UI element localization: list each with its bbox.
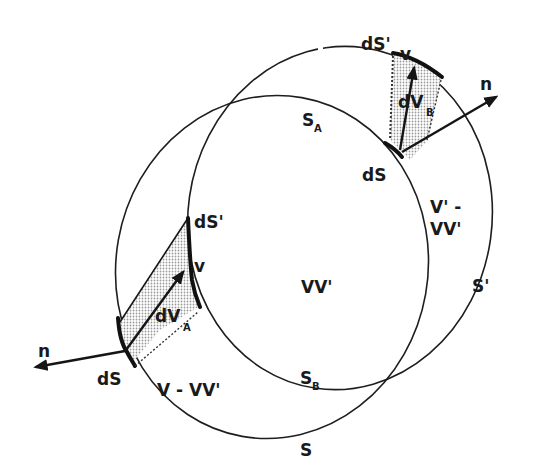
region-v-only-label: V - VV' [157,380,221,400]
left-volume-sub: A [183,322,191,333]
left-velocity-label: v [194,256,205,276]
s-prime-gap [318,42,323,52]
right-volume-sub: B [426,107,434,118]
region-intersection-label: VV' [301,277,333,297]
right-ds-prime-label: dS' [361,34,391,54]
left-ds-label: dS [97,369,121,389]
surface-s-label: S [300,440,312,460]
left-volume-label: dV [155,306,181,326]
region-vprime-only-line1: V' - [430,197,461,217]
surface-sb-label: S [300,368,312,388]
right-volume-label: dV [398,92,424,112]
surface-s-prime-label: S' [472,276,489,296]
left-normal-label: n [38,341,50,361]
right-normal-label: n [480,74,492,94]
surface-sa-label: S [302,110,314,130]
left-ds-prime-label: dS' [194,212,224,232]
right-ds-label: dS [362,165,386,185]
region-vprime-only-line2: VV' [430,219,462,239]
surface-sb-sub: B [312,381,320,392]
control-volume-diagram: n dS dS' v dV A dS' v n dV B dS S A S B … [0,0,541,470]
surface-sa-sub: A [314,123,322,134]
right-velocity-label: v [400,44,411,64]
